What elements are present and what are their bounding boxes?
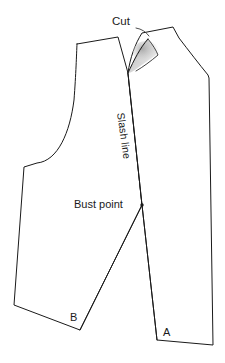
point-b-label: B	[70, 312, 77, 323]
bust-point-marker-icon	[140, 203, 143, 206]
cut-flap-glow	[133, 41, 159, 63]
cut-label: Cut	[112, 16, 130, 28]
diagram-canvas: Cut Slash line Bust point A B	[0, 0, 225, 363]
pattern-diagram	[0, 0, 225, 363]
bust-point-label: Bust point	[74, 199, 123, 210]
point-a-label: A	[163, 327, 170, 338]
